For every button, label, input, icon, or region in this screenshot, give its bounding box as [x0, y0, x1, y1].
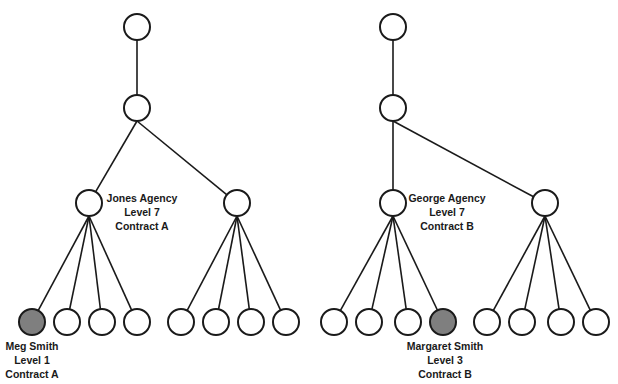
- member-node: [89, 309, 115, 335]
- member-node: [124, 309, 150, 335]
- tree-edges: [38, 40, 590, 311]
- label-meg-smith: Meg Smith Level 1 Contract A: [2, 339, 62, 381]
- agency-node-george-agency: [380, 190, 406, 216]
- agency-node-jones-agency: [76, 190, 102, 216]
- level2-node: [124, 95, 150, 121]
- member-node: [168, 309, 194, 335]
- member-node: [356, 309, 382, 335]
- root-node: [124, 14, 150, 40]
- label-george-agency: George Agency Level 7 Contract B: [407, 191, 487, 233]
- label-margaret-smith: Margaret Smith Level 3 Contract B: [403, 339, 487, 381]
- tree-nodes: [19, 14, 609, 335]
- agency-contract: Contract B: [407, 219, 487, 233]
- edge-agency-to-member: [219, 216, 237, 309]
- person-level: Level 3: [403, 353, 487, 367]
- person-contract: Contract A: [2, 367, 62, 381]
- member-node: [273, 309, 299, 335]
- agency-node: [224, 190, 250, 216]
- edge-agency-to-member: [340, 216, 393, 311]
- edge-agency-to-member: [493, 216, 545, 311]
- person-name: Meg Smith: [2, 339, 62, 353]
- member-node-margaret-smith: [430, 309, 456, 335]
- agency-node: [532, 190, 558, 216]
- agency-level: Level 7: [104, 205, 180, 219]
- member-node: [583, 309, 609, 335]
- person-contract: Contract B: [403, 367, 487, 381]
- member-node: [203, 309, 229, 335]
- edge-agency-to-member: [70, 216, 89, 309]
- edge-level2-to-agency: [137, 121, 227, 195]
- edge-agency-to-member: [38, 216, 89, 311]
- hierarchy-diagram: [0, 0, 618, 384]
- agency-name: George Agency: [407, 191, 487, 205]
- agency-name: Jones Agency: [104, 191, 180, 205]
- edge-level2-to-agency: [393, 121, 534, 197]
- root-node: [380, 14, 406, 40]
- edge-level2-to-agency: [96, 121, 137, 192]
- label-jones-agency: Jones Agency Level 7 Contract A: [104, 191, 180, 233]
- edge-agency-to-member: [525, 216, 545, 309]
- member-node: [509, 309, 535, 335]
- member-node: [238, 309, 264, 335]
- member-node-meg-smith: [19, 309, 45, 335]
- person-name: Margaret Smith: [403, 339, 487, 353]
- member-node: [474, 309, 500, 335]
- member-node: [54, 309, 80, 335]
- person-level: Level 1: [2, 353, 62, 367]
- member-node: [321, 309, 347, 335]
- agency-level: Level 7: [407, 205, 487, 219]
- level2-node: [380, 95, 406, 121]
- member-node: [395, 309, 421, 335]
- member-node: [548, 309, 574, 335]
- agency-contract: Contract A: [104, 219, 180, 233]
- edge-agency-to-member: [187, 216, 237, 311]
- edge-agency-to-member: [372, 216, 393, 309]
